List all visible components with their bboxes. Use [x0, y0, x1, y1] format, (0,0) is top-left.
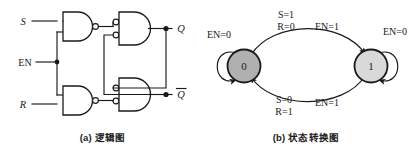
- transition-label-1-to-0-r: R=1: [275, 106, 292, 117]
- nand-gate-r-input: [63, 86, 98, 115]
- transition-label-0-to-1-en: EN=1: [315, 21, 339, 32]
- input-label-S: S: [20, 16, 26, 27]
- nand-gate-s-input: [63, 12, 98, 41]
- transition-label-0-to-1-r: R=0: [277, 21, 294, 32]
- state-diagram-svg: 0 1 S=1 R=0 EN=1 S=0 R=1 EN=1 EN=0 EN=0: [203, 0, 409, 125]
- self-loop-label-state-1: EN=0: [383, 26, 407, 37]
- transition-arc-1-to-0: [251, 76, 365, 102]
- input-label-EN: EN: [18, 57, 31, 68]
- state-transition-panel: 0 1 S=1 R=0 EN=1 S=0 R=1 EN=1 EN=0 EN=0 …: [203, 0, 409, 148]
- output-label-Q-bar: Q: [177, 89, 185, 100]
- state-label-0: 0: [241, 60, 247, 72]
- transition-label-1-to-0-en: EN=1: [315, 97, 339, 108]
- transition-label-0-to-1-s: S=1: [278, 9, 294, 20]
- figure-root: S EN R: [0, 0, 409, 148]
- output-label-Q: Q: [177, 23, 185, 34]
- nand-gate-q: [113, 12, 150, 45]
- caption-state-diagram: (b) 状态转换图: [203, 130, 409, 144]
- self-loop-label-state-0: EN=0: [207, 29, 231, 40]
- caption-logic-diagram: (a) 逻辑图: [0, 130, 205, 144]
- transition-arc-0-to-1: [251, 29, 365, 55]
- transition-label-1-to-0-s: S=0: [276, 94, 292, 105]
- logic-diagram-svg: S EN R: [0, 0, 205, 125]
- input-label-R: R: [19, 99, 27, 110]
- state-label-1: 1: [368, 60, 374, 72]
- logic-diagram-panel: S EN R: [0, 0, 205, 148]
